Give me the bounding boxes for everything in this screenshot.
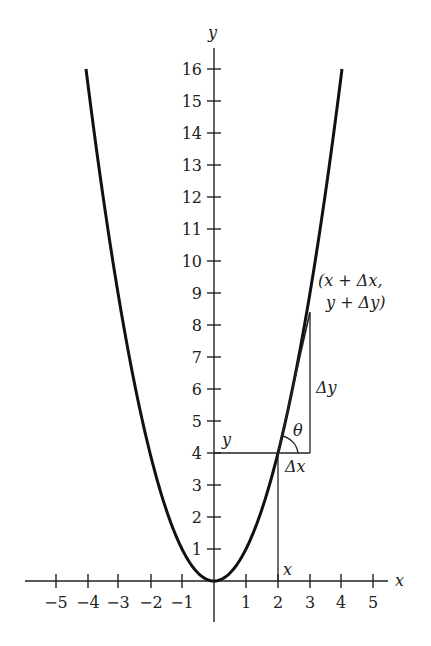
x-tick-label: 3	[305, 593, 315, 612]
point-label-line1: (x + Δx,	[318, 271, 383, 290]
y-tick-label: 5	[192, 412, 202, 431]
y-tick-label: 7	[192, 348, 202, 367]
x-tick-label: −5	[44, 593, 68, 612]
y-tick-label: 3	[192, 476, 202, 495]
y-tick-label: 15	[182, 92, 202, 111]
y-tick-label: 12	[182, 188, 202, 207]
x-axis-label: x	[395, 571, 404, 590]
y-tick-label: 11	[182, 220, 202, 239]
y-tick-label: 8	[192, 316, 202, 335]
y-tick-label: 16	[182, 60, 202, 79]
y-tick-label: 13	[182, 156, 202, 175]
x-segment-label: x	[283, 560, 292, 579]
x-tick-label: 2	[273, 593, 283, 612]
x-tick-label: −4	[76, 593, 100, 612]
y-tick-label: 1	[192, 540, 202, 559]
x-tick-label: −2	[139, 593, 163, 612]
y-tick-label: 10	[182, 252, 202, 271]
delta-y-label: Δy	[315, 378, 338, 397]
y-tick-label: 4	[192, 444, 202, 463]
x-tick-label: −3	[106, 593, 130, 612]
x-tick-label: 1	[241, 593, 251, 612]
parabola-diagram: x y −5−4−3−2−112345 12345678910111213141…	[0, 0, 431, 646]
x-tick-label: 4	[336, 593, 346, 612]
x-tick-label: 5	[368, 593, 378, 612]
x-tick-label: −1	[170, 593, 194, 612]
y-tick-label: 14	[182, 124, 202, 143]
y-tick-label: 9	[192, 284, 202, 303]
y-ticks: 12345678910111213141516	[182, 60, 221, 559]
theta-label: θ	[293, 421, 303, 440]
delta-x-label: Δx	[284, 457, 306, 476]
y-segment-label: y	[221, 430, 232, 449]
y-tick-label: 2	[192, 508, 202, 527]
y-tick-label: 6	[192, 380, 202, 399]
y-axis-label: y	[207, 23, 218, 42]
point-label-line2: y + Δy)	[325, 293, 385, 312]
